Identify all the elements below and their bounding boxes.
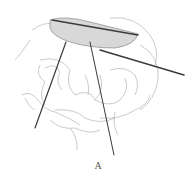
medical-illustration: [0, 0, 196, 182]
panel-label: A: [0, 160, 196, 171]
